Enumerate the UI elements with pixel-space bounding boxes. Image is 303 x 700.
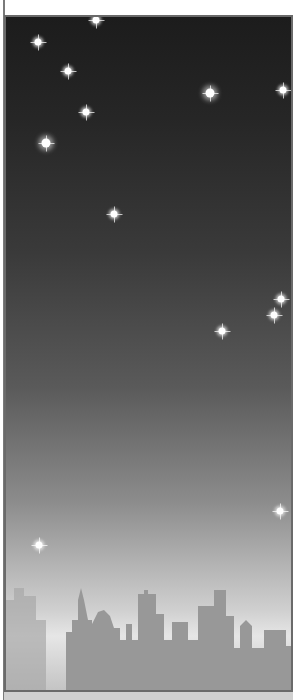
night-sky-illustration — [4, 15, 293, 692]
star-icon — [42, 139, 51, 148]
star-icon — [219, 328, 226, 335]
star-icon — [271, 312, 278, 319]
bottom-band — [4, 692, 293, 700]
star-icon — [65, 68, 72, 75]
star-icon — [83, 109, 90, 116]
star-icon — [280, 87, 287, 94]
star-icon — [277, 508, 284, 515]
star-icon — [93, 17, 100, 24]
star-icon — [35, 39, 42, 46]
city-skyline — [6, 560, 293, 690]
star-icon — [278, 296, 285, 303]
star-icon — [36, 542, 43, 549]
star-icon — [111, 211, 118, 218]
star-icon — [206, 89, 215, 98]
